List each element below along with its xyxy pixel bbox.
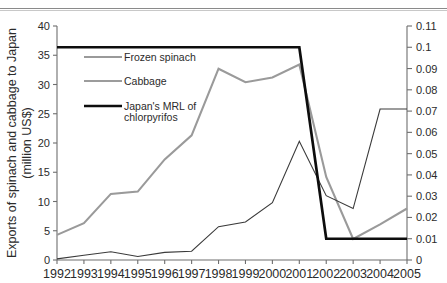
y-tick-label-right: 0.07 xyxy=(416,105,437,117)
y-axis-title: Exports of spinach and cabbage to Japan … xyxy=(5,28,34,258)
x-tick-label: 1997 xyxy=(178,267,206,281)
x-tick-label: 1999 xyxy=(232,267,260,281)
y-tick-label-left: 30 xyxy=(38,79,50,91)
y-tick-label-right: 0.05 xyxy=(416,148,437,160)
y-tick-label-right: 0.06 xyxy=(416,126,437,138)
y-tick-label-right: 0 xyxy=(416,254,422,266)
y-tick-label-right: 0.11 xyxy=(416,20,437,32)
y-tick-label-right: 0.1 xyxy=(416,41,431,53)
x-tick-label: 2004 xyxy=(366,267,394,281)
y-tick-label-right: 0.03 xyxy=(416,190,437,202)
y-tick-label-right: 0.01 xyxy=(416,233,437,245)
chart-figure: 0510152025303540 00.010.020.030.040.050.… xyxy=(0,0,447,283)
line-chart: 0510152025303540 00.010.020.030.040.050.… xyxy=(0,0,447,283)
data-series-layer xyxy=(57,47,407,259)
y-tick-label-right: 0.04 xyxy=(416,169,437,181)
x-tick-label: 2000 xyxy=(258,267,286,281)
y-tick-label-right: 0.02 xyxy=(416,211,437,223)
x-tick-label: 1995 xyxy=(124,267,152,281)
series-line xyxy=(57,65,407,239)
legend-label: Frozen spinach xyxy=(124,51,196,63)
y-tick-label-left: 0 xyxy=(44,254,50,266)
legend-label: Cabbage xyxy=(124,75,167,87)
axes xyxy=(57,26,407,260)
y-axis-left-ticks: 0510152025303540 xyxy=(38,20,57,266)
x-tick-label: 1994 xyxy=(97,267,125,281)
x-axis-ticks: 1992199319941995199619971998199920002001… xyxy=(43,260,421,281)
x-tick-label: 2005 xyxy=(393,267,421,281)
x-tick-label: 2003 xyxy=(339,267,367,281)
y-tick-label-left: 20 xyxy=(38,137,50,149)
x-tick-label: 2001 xyxy=(285,267,313,281)
y-tick-label-left: 40 xyxy=(38,20,50,32)
chart-legend: Frozen spinachCabbageJapan's MRL ofchlor… xyxy=(84,51,196,123)
y-tick-label-left: 5 xyxy=(44,225,50,237)
y-tick-label-left: 25 xyxy=(38,108,50,120)
x-tick-label: 2002 xyxy=(312,267,340,281)
y-tick-label-left: 15 xyxy=(38,166,50,178)
y-axis-title-line1: Exports of spinach and cabbage to Japan xyxy=(5,28,19,258)
y-axis-title-line2: (million US$) xyxy=(20,107,34,179)
y-tick-label-right: 0.08 xyxy=(416,84,437,96)
y-tick-label-right: 0.09 xyxy=(416,63,437,75)
x-tick-label: 1992 xyxy=(43,267,71,281)
y-tick-label-left: 35 xyxy=(38,49,50,61)
x-tick-label: 1993 xyxy=(70,267,98,281)
series-line xyxy=(57,109,407,259)
y-tick-label-left: 10 xyxy=(38,196,50,208)
y-axis-right-ticks: 00.010.020.030.040.050.060.070.080.090.1… xyxy=(407,20,437,266)
x-tick-label: 1998 xyxy=(205,267,233,281)
legend-label-continued: chlorpyrifos xyxy=(124,111,178,123)
x-tick-label: 1996 xyxy=(151,267,179,281)
